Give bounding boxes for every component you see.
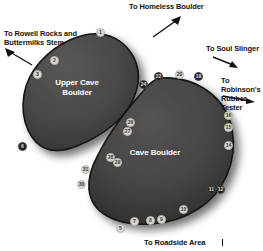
marker-10[interactable]: 10 [179, 205, 188, 214]
marker-2[interactable]: 2 [50, 56, 59, 65]
topo-map: Upper Cave Boulder Cave Boulder To Homel… [0, 0, 263, 251]
boulder-label-upper-cave: Upper Cave Boulder [46, 78, 108, 98]
marker-12[interactable]: 12 [216, 185, 225, 194]
marker-20[interactable]: 20 [175, 70, 184, 79]
marker-22[interactable]: 22 [154, 72, 163, 81]
caption-to-rowell-rocks: To Rowell Rocks and Buttermilks Stem [4, 29, 77, 47]
caption-to-soul-slinger: To Soul Slinger [206, 44, 259, 53]
marker-9[interactable]: 9 [157, 215, 166, 224]
marker-31[interactable]: 31 [81, 165, 90, 174]
marker-29[interactable]: 29 [113, 158, 122, 167]
marker-26[interactable]: 26 [126, 118, 135, 127]
marker-27[interactable]: 27 [123, 127, 132, 136]
marker-8[interactable]: 8 [146, 216, 155, 225]
arrow-to-soul-slinger [211, 54, 241, 70]
marker-6[interactable]: 6 [18, 142, 27, 151]
marker-19[interactable]: 19 [194, 72, 203, 81]
marker-1[interactable]: 1 [96, 28, 105, 37]
marker-14[interactable]: 14 [224, 141, 233, 150]
marker-11[interactable]: 11 [207, 185, 216, 194]
marker-15[interactable]: 15 [224, 123, 233, 132]
marker-16[interactable]: 16 [224, 111, 233, 120]
marker-24[interactable]: 24 [139, 80, 148, 89]
caption-to-roadside-area: To Roadside Area [144, 238, 205, 247]
marker-7[interactable]: 7 [130, 217, 139, 226]
caption-to-homeless-boulder: To Homeless Boulder [129, 2, 204, 11]
roadside-tick-mark [222, 239, 223, 246]
arrow-to-homeless-boulder [150, 14, 190, 40]
arrow-to-robinsons-rubber-tester [221, 92, 259, 106]
marker-5[interactable]: 5 [116, 224, 125, 233]
marker-3[interactable]: 3 [33, 70, 42, 79]
arrow-to-rowell-rocks [2, 46, 36, 68]
boulder-label-cave: Cave Boulder [120, 148, 190, 158]
marker-30[interactable]: 30 [77, 180, 86, 189]
